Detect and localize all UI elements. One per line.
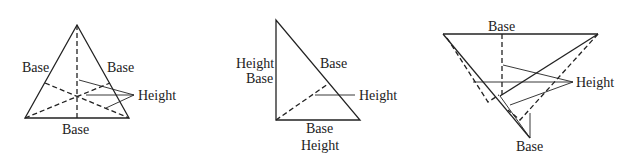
label-height-3: Height	[576, 75, 614, 90]
label-height-2: Height	[359, 88, 397, 103]
triangle-3-inner	[500, 96, 530, 138]
label-base-bottom-2: Base	[306, 121, 333, 136]
label-base-bottom-1: Base	[62, 122, 89, 137]
label-base-top-3: Base	[488, 19, 515, 34]
altitude-2	[276, 84, 328, 120]
figure-obtuse	[443, 34, 598, 138]
label-height-1: Height	[138, 88, 176, 103]
figure-right	[276, 20, 360, 120]
label-height-bottom-2: Height	[301, 138, 339, 153]
label-height-left-2: Height	[236, 56, 274, 71]
label-base-right-1: Base	[107, 60, 134, 75]
label-base-left-1: Base	[22, 60, 49, 75]
leader-3a	[503, 65, 573, 82]
leader-3c	[510, 82, 573, 105]
altitude-1c	[25, 83, 110, 118]
altitude-1b	[45, 83, 129, 118]
leader-1c	[106, 95, 134, 108]
label-base-bottom-3: Base	[516, 139, 543, 154]
label-base-left-2: Base	[246, 71, 273, 86]
triangle-2-outline	[276, 20, 360, 120]
label-base-hyp-2: Base	[320, 56, 347, 71]
triangle-heights-diagram: Base Base Base Height Height Base Base H…	[0, 0, 631, 165]
